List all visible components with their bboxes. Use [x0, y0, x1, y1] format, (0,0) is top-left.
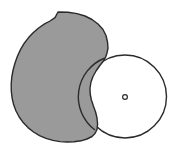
shapes-svg — [0, 0, 174, 151]
figure-canvas: Overlapping shapes diagram — [0, 0, 174, 151]
circle-center-dot — [123, 95, 128, 100]
